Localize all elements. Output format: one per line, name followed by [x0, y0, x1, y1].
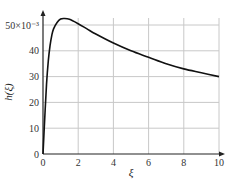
y-axis-label: h(ξ) [2, 83, 15, 101]
svg-text:40: 40 [29, 45, 39, 56]
svg-text:2: 2 [76, 157, 81, 168]
svg-text:30: 30 [29, 71, 39, 82]
svg-text:10: 10 [29, 123, 39, 134]
data-curve [43, 19, 219, 154]
svg-text:4: 4 [111, 157, 116, 168]
svg-text:20: 20 [29, 97, 39, 108]
svg-text:8: 8 [181, 157, 186, 168]
svg-text:10: 10 [214, 157, 224, 168]
svg-text:6: 6 [146, 157, 151, 168]
svg-text:0: 0 [34, 149, 39, 160]
svg-text:50×10⁻³: 50×10⁻³ [5, 20, 39, 31]
grid-lines [43, 18, 219, 154]
svg-text:0: 0 [41, 157, 46, 168]
x-axis-label: ξ [129, 166, 134, 179]
line-chart: 0246810 01020304050×10⁻³ ξ h(ξ) [0, 0, 230, 181]
axes [41, 10, 226, 157]
